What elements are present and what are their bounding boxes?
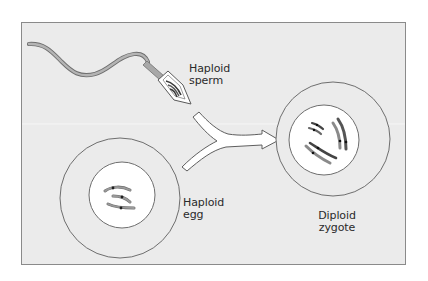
centromere — [313, 129, 315, 131]
zygote-nucleus — [289, 105, 359, 175]
sperm-label: Haploid sperm — [189, 63, 230, 87]
egg-label-line2: egg — [183, 209, 224, 221]
egg-cell — [60, 138, 180, 258]
sperm-tail — [29, 44, 148, 75]
zygote-label: Diploid zygote — [313, 210, 361, 234]
sperm-head — [158, 71, 191, 104]
centromere — [120, 207, 123, 210]
centromere — [112, 187, 115, 190]
zygote-cell — [276, 82, 390, 196]
centromere — [317, 147, 320, 150]
centromere — [345, 141, 348, 144]
fertilization-diagram — [0, 0, 428, 281]
merge-arrow — [182, 112, 279, 171]
centromere — [312, 152, 315, 155]
centromere — [339, 140, 342, 143]
centromere — [121, 196, 124, 199]
sperm-cell — [29, 44, 191, 104]
zygote-label-line2: zygote — [313, 222, 361, 234]
sperm-label-line2: sperm — [189, 75, 230, 87]
egg-nucleus — [89, 162, 155, 228]
egg-label: Haploid egg — [183, 197, 224, 221]
centromere — [316, 124, 318, 126]
